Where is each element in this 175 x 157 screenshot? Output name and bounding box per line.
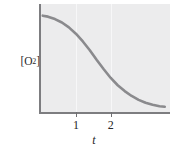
x-tick-label-1: 1 — [68, 118, 84, 133]
concentration-decay-curve — [41, 4, 170, 113]
x-tick-mark-2 — [111, 112, 112, 117]
x-tick-mark-1 — [76, 112, 77, 117]
curve-polyline — [43, 16, 165, 107]
y-axis-label: [O2] — [10, 51, 40, 71]
x-axis-label: t — [86, 133, 102, 148]
kinetics-plot-figure: [O2] 1 2 t — [0, 0, 175, 157]
x-axis-line — [39, 112, 170, 114]
x-tick-label-2: 2 — [103, 118, 119, 133]
y-axis-label-text: [O — [21, 55, 33, 67]
y-axis-line — [39, 4, 41, 114]
